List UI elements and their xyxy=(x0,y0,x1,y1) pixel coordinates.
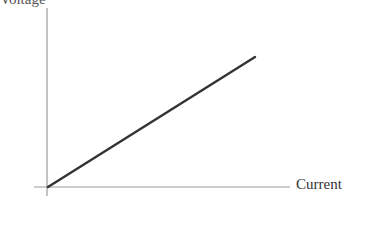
x-axis-label: Current xyxy=(296,176,342,193)
data-line xyxy=(48,57,255,187)
